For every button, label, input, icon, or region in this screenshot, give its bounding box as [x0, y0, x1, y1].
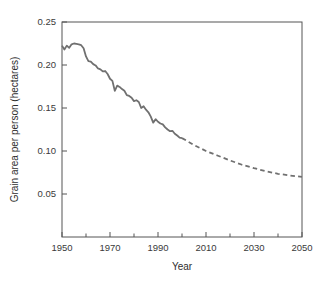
x-axis-tick-label: 2030 [243, 242, 264, 253]
x-axis-tick-label: 2010 [195, 242, 216, 253]
y-axis-tick-label: 0.05 [38, 188, 57, 199]
x-axis-tick-label: 1950 [51, 242, 72, 253]
grain-area-per-person-line-chart: 1950197019902010203020500.050.100.150.20… [0, 0, 328, 286]
x-axis-title: Year [172, 261, 193, 272]
plot-frame [62, 22, 302, 237]
x-axis-tick-label: 1990 [147, 242, 168, 253]
y-axis-title: Grain area per person (hectares) [9, 57, 20, 203]
y-axis-tick-label: 0.20 [38, 59, 57, 70]
x-axis-tick-label: 2050 [291, 242, 312, 253]
chart-figure: 1950197019902010203020500.050.100.150.20… [0, 0, 328, 286]
y-axis-tick-label: 0.25 [38, 16, 57, 27]
x-axis-tick-label: 1970 [99, 242, 120, 253]
y-axis-tick-label: 0.10 [38, 145, 57, 156]
y-axis-tick-label: 0.15 [38, 102, 57, 113]
